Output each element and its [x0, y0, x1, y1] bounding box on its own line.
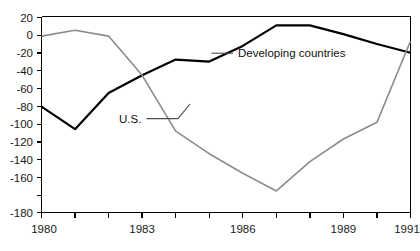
chart-frame [42, 17, 411, 214]
y-label-m180: -180 [10, 207, 33, 219]
y-label-m100: -100 [10, 118, 33, 130]
y-label-m140: -140 [10, 154, 33, 166]
y-label-m60: -60 [16, 83, 33, 95]
y-label-m160: -160 [10, 172, 33, 184]
series-label-developing-countries: Developing countries [238, 47, 346, 59]
x-label-1986: 1986 [230, 223, 256, 235]
y-label-m120: -120 [10, 136, 33, 148]
data-series-group [42, 25, 411, 191]
y-label-m40: -40 [16, 65, 33, 77]
us-leader-line [147, 104, 191, 119]
x-tick-labels: 1980 1983 1986 1989 1991 [31, 223, 420, 235]
series-label-us: U.S. [119, 113, 141, 125]
annotation-labels: Developing countries U.S. [119, 47, 346, 124]
y-tick-labels: 20 0 -20 -40 -60 -80 -100 -120 -140 -160… [10, 12, 33, 219]
y-label-20: 20 [20, 12, 33, 24]
y-label-m80: -80 [16, 101, 33, 113]
x-label-1989: 1989 [331, 223, 357, 235]
line-chart: 20 0 -20 -40 -60 -80 -100 -120 -140 -160… [0, 0, 420, 251]
annotation-leaders [147, 53, 234, 118]
series-line-developing-countries [42, 25, 411, 129]
chart-figure: 20 0 -20 -40 -60 -80 -100 -120 -140 -160… [0, 0, 420, 251]
x-label-1983: 1983 [129, 223, 155, 235]
x-label-1980: 1980 [31, 223, 57, 235]
x-label-1991: 1991 [394, 223, 420, 235]
y-label-0: 0 [27, 29, 33, 41]
y-label-m20: -20 [16, 47, 33, 59]
